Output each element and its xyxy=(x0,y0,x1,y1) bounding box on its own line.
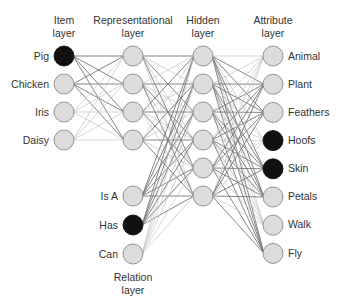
item-node-chicken xyxy=(54,74,74,94)
relation-node-has xyxy=(123,215,143,235)
relation-label-can: Can xyxy=(99,248,118,260)
attribute-node-hoofs xyxy=(263,131,283,151)
item-label-chicken: Chicken xyxy=(11,78,49,90)
connection-line xyxy=(142,84,194,254)
item-layer-title-2: layer xyxy=(53,27,76,39)
attribute-label-plant: Plant xyxy=(288,78,312,90)
item-label-daisy: Daisy xyxy=(23,134,50,146)
attribute-label-hoofs: Hoofs xyxy=(288,134,315,146)
neural-network-diagram: Item layer Representational layer Hidden… xyxy=(0,0,339,307)
hidden-node xyxy=(193,158,213,178)
relation-layer-title-1: Relation xyxy=(114,271,153,283)
relation-label-is-a: Is A xyxy=(100,190,118,202)
attribute-label-feathers: Feathers xyxy=(288,106,329,118)
attribute-label-walk: Walk xyxy=(288,218,312,230)
hidden-node xyxy=(193,102,213,122)
attribute-node-fly xyxy=(263,243,283,263)
hidden-node xyxy=(193,46,213,66)
attribute-node-plant xyxy=(263,74,283,94)
relation-label-has: Has xyxy=(99,219,118,231)
attribute-node-walk xyxy=(263,215,283,235)
connection-line xyxy=(142,168,194,254)
representational-node xyxy=(123,74,143,94)
relation-node-can xyxy=(123,244,143,264)
attribute-label-petals: Petals xyxy=(288,190,317,202)
item-node-daisy xyxy=(54,130,74,150)
attribute-layer-title-2: layer xyxy=(262,27,285,39)
relation-node-is-a xyxy=(123,186,143,206)
attribute-label-skin: Skin xyxy=(288,162,309,174)
representational-node xyxy=(123,102,143,122)
item-layer-title-1: Item xyxy=(54,14,75,26)
item-node-pig xyxy=(54,46,74,66)
connection-line xyxy=(142,56,194,225)
item-label-iris: Iris xyxy=(35,106,49,118)
attribute-node-skin xyxy=(263,159,283,179)
item-label-pig: Pig xyxy=(34,50,49,62)
attribute-layer-title-1: Attribute xyxy=(253,14,292,26)
relation-layer-title-2: layer xyxy=(122,284,145,296)
attribute-node-animal xyxy=(263,46,283,66)
connection-line xyxy=(212,196,264,197)
hidden-layer-title-1: Hidden xyxy=(186,14,219,26)
hidden-layer-title-2: layer xyxy=(192,27,215,39)
representational-node xyxy=(123,46,143,66)
representational-layer-title-1: Representational xyxy=(93,14,172,26)
hidden-node xyxy=(193,130,213,150)
attribute-label-fly: Fly xyxy=(288,247,303,259)
hidden-node xyxy=(193,186,213,206)
representational-layer-title-2: layer xyxy=(122,27,145,39)
attribute-label-animal: Animal xyxy=(288,50,320,62)
connection-line xyxy=(212,169,264,196)
item-node-iris xyxy=(54,102,74,122)
representational-node xyxy=(123,130,143,150)
attribute-node-feathers xyxy=(263,102,283,122)
connection-line xyxy=(142,140,194,254)
attribute-node-petals xyxy=(263,187,283,207)
hidden-node xyxy=(193,74,213,94)
